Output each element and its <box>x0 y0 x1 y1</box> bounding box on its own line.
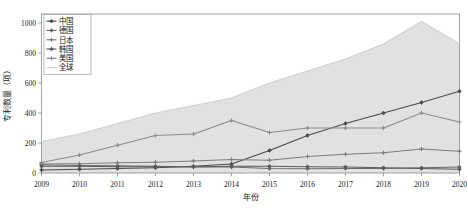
y-tick-label: 600 <box>25 79 37 88</box>
chart-legend: 中国德国日本韩国美国全球 <box>44 15 91 75</box>
y-tick-label: 400 <box>25 109 37 118</box>
area-global <box>42 22 460 174</box>
chart-container: 0200400600800100020092010201120122013201… <box>0 0 468 213</box>
global-area-fill <box>42 22 460 174</box>
y-tick-label: 1000 <box>21 19 36 28</box>
legend-label-全球: 全球 <box>59 62 74 72</box>
legend-label-日本: 日本 <box>59 35 74 45</box>
x-tick-label: 2011 <box>110 180 125 189</box>
x-tick-label: 2016 <box>300 180 315 189</box>
x-axis-title: 年份 <box>243 192 259 202</box>
x-tick-label: 2014 <box>224 180 239 189</box>
legend-label-韩国: 韩国 <box>59 44 73 54</box>
legend-label-美国: 美国 <box>59 53 73 63</box>
x-tick-label: 2015 <box>262 180 277 189</box>
x-tick-label: 2013 <box>186 180 201 189</box>
x-tick-label: 2017 <box>338 180 353 189</box>
x-tick-label: 2019 <box>414 180 429 189</box>
x-tick-label: 2018 <box>376 180 391 189</box>
x-tick-label: 2012 <box>148 180 163 189</box>
legend-label-德国: 德国 <box>59 25 73 35</box>
y-tick-label: 0 <box>32 169 36 178</box>
y-tick-label: 200 <box>25 139 37 148</box>
line-chart: 0200400600800100020092010201120122013201… <box>0 0 468 213</box>
x-tick-label: 2010 <box>72 180 87 189</box>
x-tick-label: 2020 <box>452 180 467 189</box>
x-tick-label: 2009 <box>34 180 49 189</box>
y-tick-label: 800 <box>25 49 37 58</box>
legend-label-中国: 中国 <box>59 16 73 26</box>
y-axis-title: 专利数量（项） <box>2 66 12 122</box>
